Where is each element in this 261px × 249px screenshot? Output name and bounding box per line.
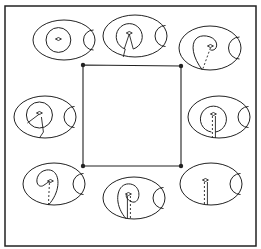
vertex-dot <box>81 63 85 67</box>
panel-middle-right <box>188 96 250 138</box>
boundary-circle <box>84 30 94 50</box>
outer-oval <box>103 15 167 57</box>
boundary-circle <box>230 174 241 195</box>
teardrop-curve <box>193 36 217 70</box>
outer-oval <box>103 177 165 219</box>
outer-oval <box>33 20 95 60</box>
inner-loop <box>200 106 226 132</box>
outer-oval <box>14 96 76 138</box>
panel-top-center <box>103 15 167 57</box>
square-edges <box>83 65 181 166</box>
boundary-circle <box>64 107 75 128</box>
boundary-circle <box>155 26 166 47</box>
outer-oval <box>180 163 242 205</box>
small-loop <box>125 193 131 196</box>
small-loop <box>207 45 213 48</box>
panel-bottom-left <box>23 163 85 205</box>
arc <box>41 117 43 132</box>
vertex-dot <box>81 164 85 168</box>
small-loop <box>210 113 216 116</box>
central-square <box>81 63 183 168</box>
arc <box>129 34 133 49</box>
spiral-curve <box>37 170 58 205</box>
panel-bottom-center <box>103 177 165 219</box>
outer-oval <box>23 163 85 205</box>
dashed-arc <box>48 183 49 205</box>
panel-middle-left <box>14 96 76 138</box>
small-loop <box>202 179 208 182</box>
diagram-stage <box>0 0 261 249</box>
arc <box>39 132 43 138</box>
vertex-dot <box>179 164 183 168</box>
inner-loop <box>116 24 142 49</box>
boundary-circle <box>73 174 84 195</box>
small-loop <box>47 180 53 183</box>
dashed-arc <box>202 48 210 70</box>
boundary-circle <box>238 107 249 128</box>
arc <box>27 114 39 123</box>
panel-bottom-right <box>180 163 242 205</box>
panel-top-left <box>33 20 95 60</box>
spiral-curve <box>118 184 139 219</box>
arc <box>124 34 129 49</box>
boundary-circle <box>153 188 164 209</box>
oval-panels <box>14 15 250 219</box>
panel-top-right <box>179 26 241 70</box>
small-loop <box>55 38 61 41</box>
boundary-circle <box>229 37 240 59</box>
inner-circle <box>46 28 71 53</box>
inner-circle <box>26 102 52 128</box>
vertex-dot <box>179 64 183 68</box>
diagram-figure <box>0 0 261 249</box>
outer-oval <box>188 96 250 138</box>
